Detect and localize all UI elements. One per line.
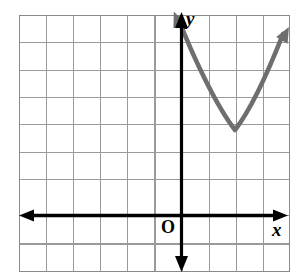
coordinate-plane: [0, 0, 303, 279]
graph-figure: y x O: [0, 0, 303, 279]
origin-label: O: [161, 218, 175, 236]
y-axis-label: y: [186, 9, 194, 28]
x-axis-label: x: [272, 220, 282, 239]
